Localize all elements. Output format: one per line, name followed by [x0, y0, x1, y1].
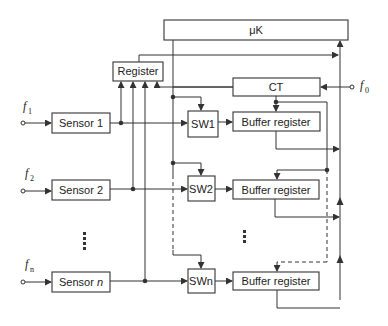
register-label: Register — [118, 65, 159, 77]
counter-label: CT — [269, 81, 284, 93]
switch-n-label: SWn — [189, 275, 213, 287]
input-fn-subscript: n — [30, 265, 34, 274]
sensor-1-label: Sensor 1 — [59, 117, 103, 129]
buffer-register-n-label: Buffer register — [242, 275, 311, 287]
input-f1-subscript: 1 — [28, 107, 32, 116]
sensor-ellipsis — [83, 232, 86, 250]
sensor-2-label: Sensor 2 — [59, 184, 103, 196]
buffer-ellipsis — [243, 230, 246, 243]
counter-block: CT — [233, 78, 320, 96]
register-block: Register — [113, 62, 163, 81]
switch-2-label: SW2 — [189, 183, 213, 195]
block-diagram: μK Register CT f 0 — [0, 0, 388, 326]
microcontroller-block: μK — [164, 20, 348, 40]
input-f2-subscript: 2 — [30, 174, 34, 183]
buffer-register-1-label: Buffer register — [242, 116, 311, 128]
buffer-register-2-label: Buffer register — [242, 184, 311, 196]
clock-input: f 0 — [321, 78, 369, 95]
sensor-n-label: Sensor n — [59, 276, 103, 288]
microcontroller-label: μK — [249, 24, 263, 36]
clock-subscript: 0 — [365, 86, 369, 95]
switch-1-label: SW1 — [191, 118, 215, 130]
